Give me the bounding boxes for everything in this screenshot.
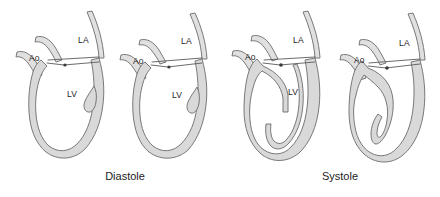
label-la: LA xyxy=(293,35,304,45)
heart-diastole-2: Ao LA LV xyxy=(120,13,207,158)
caption-diastole: Diastole xyxy=(105,170,145,182)
valve-marker xyxy=(279,63,283,67)
cardiac-cycle-diagram: Ao LA LV Ao LA LV Diastole xyxy=(0,0,440,197)
label-ao: Ao xyxy=(354,55,365,65)
mitral-valve-leaflets xyxy=(47,62,99,65)
great-vessel xyxy=(190,13,207,59)
label-la: LA xyxy=(181,36,192,46)
panel-systole: Ao LA LV Ao LA Systole xyxy=(232,11,425,182)
great-vessel xyxy=(408,13,425,60)
valve-marker xyxy=(167,65,170,68)
heart-systole-2: Ao LA xyxy=(340,13,425,162)
label-lv: LV xyxy=(172,90,182,100)
mitral-valve-leaflets xyxy=(151,63,202,67)
heart-diastole-1: Ao LA LV xyxy=(16,11,104,158)
valve-marker xyxy=(385,66,389,70)
great-vessel xyxy=(87,11,104,58)
label-lv: LV xyxy=(67,89,77,99)
label-ao: Ao xyxy=(245,52,256,62)
label-la: LA xyxy=(78,35,89,45)
caption-systole: Systole xyxy=(322,170,358,182)
label-la: LA xyxy=(399,38,410,48)
great-vessel xyxy=(303,11,320,58)
label-ao: Ao xyxy=(29,53,40,63)
myocardium-wall xyxy=(349,60,425,162)
panel-diastole: Ao LA LV Ao LA LV Diastole xyxy=(16,11,207,182)
heart-systole-1: Ao LA LV xyxy=(232,11,320,161)
label-ao: Ao xyxy=(133,56,144,66)
valve-marker xyxy=(63,63,66,66)
label-lv: LV xyxy=(288,87,298,97)
